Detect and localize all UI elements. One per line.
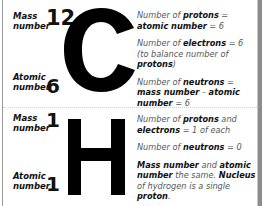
fact-term: atomic number bbox=[137, 21, 207, 31]
fact-term: proton bbox=[137, 191, 168, 201]
fact-text: = 6 bbox=[173, 98, 190, 108]
fact-term: protons bbox=[183, 10, 219, 20]
fact-text: = 0 bbox=[225, 142, 242, 152]
fact-text: – bbox=[199, 87, 208, 97]
atomic-label-line2: number bbox=[13, 82, 50, 92]
carbon-fact-protons: Number of protons = atomic number = 6 bbox=[137, 10, 257, 31]
hydrogen-fact-neutrons: Number of neutrons = 0 bbox=[137, 142, 257, 153]
fact-term: protons bbox=[137, 59, 173, 69]
fact-term: Mass number bbox=[137, 160, 199, 170]
fact-term: Nucleus bbox=[219, 170, 256, 180]
atomic-label-line1: Atomic bbox=[13, 171, 50, 181]
fact-text: Number of bbox=[137, 77, 183, 87]
hydrogen-facts: Number of protons and electrons = 1 of e… bbox=[137, 114, 257, 206]
hydrogen-symbol-h bbox=[68, 119, 125, 195]
fact-text: . bbox=[168, 191, 171, 201]
mass-label-line2: number bbox=[13, 21, 50, 31]
mass-label-line1: Mass bbox=[13, 11, 50, 21]
fact-text: = bbox=[225, 77, 234, 87]
fact-term: mass number bbox=[137, 87, 199, 97]
atomic-label-line1: Atomic bbox=[13, 72, 50, 82]
fact-term: neutrons bbox=[183, 142, 225, 152]
fact-text: Number of bbox=[137, 142, 183, 152]
hydrogen-atomic-label: Atomic number bbox=[13, 171, 50, 191]
frame-right-border bbox=[258, 0, 262, 206]
hydrogen-panel: Mass number 1 Atomic number 1 Number of … bbox=[0, 108, 257, 206]
fact-text: Number of bbox=[137, 10, 183, 20]
carbon-mass-label: Mass number bbox=[13, 11, 50, 31]
hydrogen-mass-number: 1 bbox=[46, 110, 60, 130]
carbon-symbol-c bbox=[62, 6, 136, 94]
atomic-label-line2: number bbox=[13, 181, 50, 191]
carbon-atomic-label: Atomic number bbox=[13, 72, 50, 92]
fact-text: = bbox=[219, 10, 228, 20]
fact-text: the same. bbox=[173, 170, 219, 180]
fact-text: ) bbox=[173, 59, 176, 69]
fact-term: neutrons bbox=[183, 77, 225, 87]
fact-term: protons bbox=[183, 114, 219, 124]
carbon-panel: Mass number 12 Atomic number 6 Number of… bbox=[0, 0, 257, 103]
hydrogen-mass-label: Mass number bbox=[13, 113, 50, 133]
carbon-fact-neutrons: Number of neutrons = mass number – atomi… bbox=[137, 77, 257, 109]
hydrogen-fact-nucleus: Mass number and atomic number the same. … bbox=[137, 160, 257, 202]
fact-text: = 6 bbox=[207, 21, 224, 31]
fact-term: electrons bbox=[183, 38, 226, 48]
fact-text: of hydrogen is a single bbox=[137, 181, 230, 191]
hydrogen-atomic-number: 1 bbox=[46, 174, 60, 194]
carbon-atomic-number: 6 bbox=[46, 76, 60, 96]
fact-text: = 1 of each bbox=[180, 125, 230, 135]
carbon-facts: Number of protons = atomic number = 6 Nu… bbox=[137, 10, 257, 115]
fact-text: Number of bbox=[137, 114, 183, 124]
mass-label-line2: number bbox=[13, 123, 50, 133]
fact-text: Number of bbox=[137, 38, 183, 48]
carbon-fact-electrons: Number of electrons = 6 (to balance numb… bbox=[137, 38, 257, 70]
fact-text: and bbox=[219, 114, 237, 124]
hydrogen-fact-protons-electrons: Number of protons and electrons = 1 of e… bbox=[137, 114, 257, 135]
fact-term: electrons bbox=[137, 125, 180, 135]
fact-text: and bbox=[199, 160, 220, 170]
mass-label-line1: Mass bbox=[13, 113, 50, 123]
